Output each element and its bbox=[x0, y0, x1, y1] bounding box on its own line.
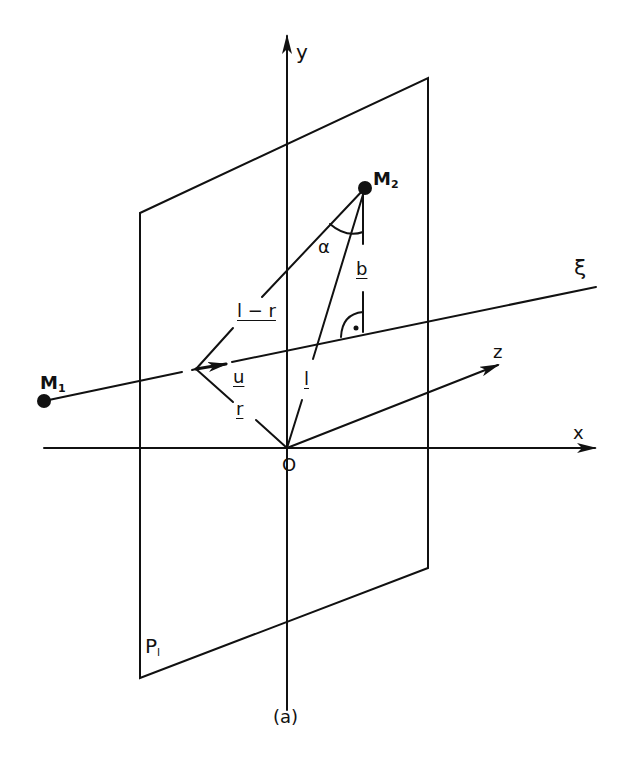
y-axis-label: y bbox=[296, 42, 308, 62]
vector-u-label: u bbox=[233, 368, 244, 386]
vector-l-minus-r-upper bbox=[262, 188, 365, 297]
point-m2-label-main: M bbox=[373, 168, 391, 189]
plane-label-sub: l bbox=[157, 646, 160, 659]
origin-label: O bbox=[282, 456, 296, 474]
x-axis-label: x bbox=[573, 424, 584, 442]
point-m2 bbox=[358, 181, 372, 195]
plane-label-main: P bbox=[145, 634, 157, 658]
point-m1-label-main: M bbox=[40, 372, 58, 393]
alpha-label: α bbox=[318, 238, 330, 256]
right-angle-dot bbox=[354, 326, 359, 331]
vector-l-label: l bbox=[304, 370, 309, 388]
z-axis bbox=[287, 365, 498, 448]
point-m1-label-sub: 1 bbox=[58, 382, 66, 395]
point-m1-label: M1 bbox=[40, 374, 66, 394]
geometry-diagram bbox=[0, 0, 624, 767]
alpha-arc bbox=[330, 224, 363, 234]
vector-b-label: b bbox=[356, 260, 367, 278]
right-angle-arc bbox=[341, 312, 363, 337]
vector-r-upper bbox=[196, 369, 233, 402]
plane-label: Pl bbox=[145, 636, 160, 658]
vector-r-label: r bbox=[236, 400, 243, 418]
z-axis-label: z bbox=[493, 343, 502, 361]
figure-caption: (a) bbox=[273, 708, 298, 726]
xi-label: ξ bbox=[574, 257, 586, 279]
point-m2-label-sub: 2 bbox=[391, 178, 399, 191]
vector-r-lower bbox=[256, 420, 287, 448]
point-m2-label: M2 bbox=[373, 170, 399, 190]
vector-l-minus-r-label: l − r bbox=[237, 302, 276, 320]
vector-l-lower bbox=[287, 400, 302, 448]
vector-l-minus-r-lower bbox=[196, 328, 233, 369]
point-m1 bbox=[37, 394, 51, 408]
